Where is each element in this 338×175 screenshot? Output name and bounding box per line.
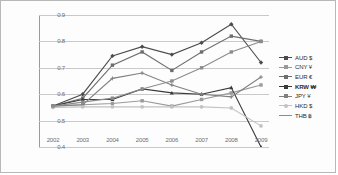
data-point — [81, 105, 85, 109]
legend-item[interactable]: HKD $ — [279, 101, 337, 111]
data-point — [140, 44, 144, 48]
x-tick-label: 2006 — [166, 137, 179, 143]
legend-label: EUR € — [295, 74, 312, 80]
x-tick-label: 2008 — [225, 137, 238, 143]
data-point — [200, 66, 203, 69]
data-point — [259, 40, 262, 43]
x-tick-label: 2004 — [106, 137, 119, 143]
x-tick-label: 2002 — [47, 137, 60, 143]
legend-label: AUD $ — [295, 55, 312, 61]
legend-item[interactable]: AUD $ — [279, 53, 337, 63]
data-point — [230, 34, 233, 37]
legend-marker-icon — [279, 112, 292, 119]
data-point — [111, 105, 115, 109]
legend-marker-icon — [279, 64, 292, 71]
series-line — [53, 107, 261, 126]
chart-container: 0.90.80.70.60.50.4 200220032004200520062… — [0, 0, 336, 173]
x-tick-label: 2009 — [255, 137, 268, 143]
y-tick-label: 0.5 — [57, 118, 65, 124]
data-point — [170, 79, 173, 82]
legend-item[interactable]: THB ฿ — [279, 111, 337, 121]
data-point — [200, 105, 204, 109]
x-tick-label: 2003 — [76, 137, 89, 143]
series-lines — [39, 15, 269, 147]
legend-item[interactable]: KRW ₩ — [279, 82, 337, 92]
data-point — [140, 50, 143, 53]
data-point — [170, 105, 174, 109]
legend-label: THB ฿ — [295, 112, 312, 119]
chart-legend: AUD $CNY ¥EUR €KRW ₩JPY ¥HKD $THB ฿ — [279, 53, 337, 120]
legend-label: CNY ¥ — [295, 64, 312, 70]
legend-marker-icon — [279, 73, 292, 80]
data-point — [111, 63, 114, 66]
series-line — [53, 36, 261, 106]
y-tick-label: 0.9 — [57, 12, 65, 18]
data-point — [111, 102, 114, 105]
legend-label: KRW ₩ — [295, 84, 316, 90]
data-point — [140, 87, 143, 90]
data-point — [259, 83, 262, 86]
legend-marker-icon — [279, 83, 292, 90]
data-point — [140, 105, 144, 109]
legend-item[interactable]: CNY ¥ — [279, 63, 337, 73]
y-tick-label: 0.4 — [57, 144, 65, 150]
data-point — [51, 104, 54, 107]
data-point — [230, 91, 233, 94]
data-point — [200, 98, 203, 101]
y-tick-label: 0.6 — [57, 91, 65, 97]
x-tick-label: 2007 — [195, 137, 208, 143]
data-point — [170, 69, 173, 72]
data-point — [229, 106, 233, 110]
data-point — [200, 50, 203, 53]
legend-marker-icon — [279, 54, 292, 61]
data-point — [230, 50, 233, 53]
y-tick-label: 0.8 — [57, 38, 65, 44]
legend-item[interactable]: EUR € — [279, 72, 337, 82]
data-point — [81, 100, 84, 103]
data-point — [170, 83, 174, 87]
data-point — [140, 71, 144, 75]
gridline — [39, 147, 269, 148]
legend-item[interactable]: JPY ¥ — [279, 91, 337, 101]
legend-marker-icon — [279, 102, 292, 109]
legend-label: JPY ¥ — [295, 93, 310, 99]
legend-marker-icon — [279, 93, 292, 100]
plot-area — [39, 15, 269, 147]
y-tick-label: 0.7 — [57, 65, 65, 71]
data-point — [140, 99, 143, 102]
legend-label: HKD $ — [295, 103, 312, 109]
data-point — [259, 124, 263, 128]
data-point — [111, 96, 114, 99]
data-point — [170, 52, 174, 56]
x-tick-label: 2005 — [136, 137, 149, 143]
